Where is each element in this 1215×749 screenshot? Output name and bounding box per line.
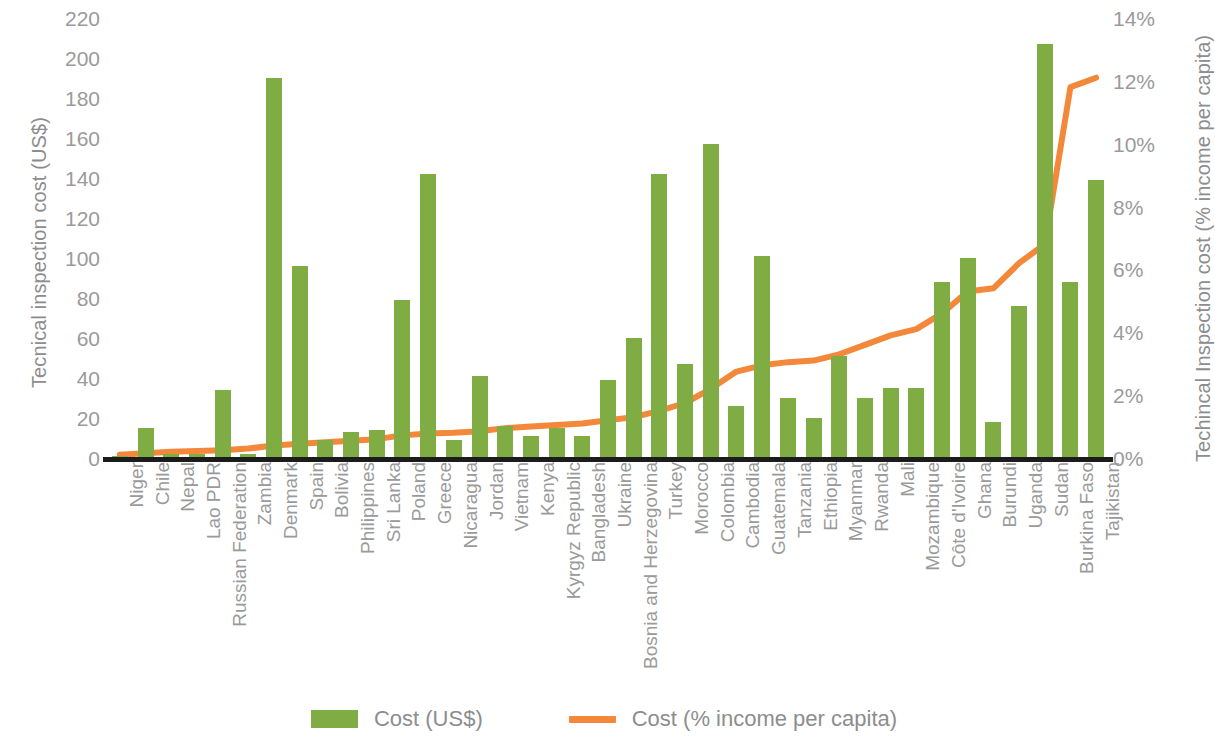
bar: [317, 440, 333, 458]
x-axis-category-label: Kenya: [538, 462, 557, 516]
bar: [677, 364, 693, 458]
y-axis-left-tick: 220: [54, 8, 100, 29]
x-axis-category-label: Turkey: [666, 462, 685, 519]
y-axis-left-tick: 40: [54, 368, 100, 389]
chart-legend: Cost (US$) Cost (% income per capita): [0, 706, 1208, 732]
bar: [780, 398, 796, 458]
x-axis-category-label: Philippines: [358, 462, 377, 554]
x-axis-category-label: Chile: [153, 462, 172, 505]
x-axis-category-label: Jordan: [487, 462, 506, 520]
x-axis-category-label: Spain: [307, 462, 326, 511]
y-axis-right-title: Techincal Inspection cost (% income per …: [1192, 35, 1215, 462]
y-axis-left-tick: 120: [54, 208, 100, 229]
x-axis-category-label: Mozambique: [923, 462, 942, 571]
x-axis-category-label: Niger: [127, 462, 146, 507]
x-axis-category-label: Colombia: [718, 462, 737, 542]
bar: [934, 282, 950, 458]
bar: [292, 266, 308, 458]
x-axis-category-label: Tajikistan: [1103, 462, 1122, 540]
legend-label-cost-percent-income: Cost (% income per capita): [632, 706, 897, 732]
x-axis-category-label: Nepal: [178, 462, 197, 512]
bar: [138, 428, 154, 458]
x-axis-category-label: Burundi: [1000, 462, 1019, 528]
y-axis-left-ticks: 020406080100120140160180200220: [54, 0, 100, 749]
bar: [574, 436, 590, 458]
legend-label-cost-usd: Cost (US$): [374, 706, 483, 732]
y-axis-right-tick: 8%: [1113, 197, 1173, 218]
bar: [1011, 306, 1027, 458]
x-axis-category-label: Mali: [898, 462, 917, 497]
bar: [703, 144, 719, 458]
x-axis-category-label: Denmark: [281, 462, 300, 539]
y-axis-left-tick: 80: [54, 288, 100, 309]
y-axis-left-tick: 180: [54, 88, 100, 109]
y-axis-right-tick: 12%: [1113, 71, 1173, 92]
y-axis-left-tick: 100: [54, 248, 100, 269]
bar: [549, 428, 565, 458]
y-axis-right-ticks: 0%2%4%6%8%10%12%14%: [1113, 0, 1173, 749]
x-axis-category-label: Greece: [435, 462, 454, 524]
x-axis-category-label: Poland: [409, 462, 428, 521]
bar: [908, 388, 924, 458]
bar: [523, 436, 539, 458]
bar: [1037, 44, 1053, 458]
x-axis-category-label: Burkina Faso: [1077, 462, 1096, 574]
bar: [369, 430, 385, 458]
plot-area: [107, 18, 1109, 458]
y-axis-left-tick: 60: [54, 328, 100, 349]
bar: [985, 422, 1001, 458]
bar: [472, 376, 488, 458]
x-axis-category-label: Bosnia and Herzegovina: [641, 462, 660, 669]
y-axis-left-title: Tecnical inspection cost (US$): [28, 117, 51, 388]
bar: [215, 390, 231, 458]
y-axis-left-tick: 200: [54, 48, 100, 69]
legend-bar-swatch-icon: [311, 710, 358, 728]
x-axis-category-label: Bolivia: [332, 462, 351, 518]
x-axis-category-label: Lao PDR: [204, 462, 223, 539]
x-axis-category-labels: NigerChileNepalLao PDRRussian Federation…: [107, 462, 1109, 692]
x-axis-category-label: Ethiopia: [821, 462, 840, 531]
x-axis-category-label: Sudan: [1052, 462, 1071, 517]
bar: [446, 440, 462, 458]
x-axis-category-label: Guatemala: [769, 462, 788, 555]
x-axis-category-label: Ghana: [975, 462, 994, 519]
legend-item-cost-usd: Cost (US$): [311, 706, 483, 732]
bar: [266, 78, 282, 458]
y-axis-left-tick: 140: [54, 168, 100, 189]
legend-line-swatch-icon: [569, 716, 616, 723]
x-axis-category-label: Uganda: [1026, 462, 1045, 529]
y-axis-right-tick: 14%: [1113, 8, 1173, 29]
x-axis-category-label: Tanzania: [795, 462, 814, 538]
bar: [343, 432, 359, 458]
bar: [420, 174, 436, 458]
x-axis-category-label: Kyrgyz Republic: [564, 462, 583, 599]
bar: [883, 388, 899, 458]
x-axis-category-label: Ukraine: [615, 462, 634, 527]
bar: [1062, 282, 1078, 458]
x-axis-category-label: Morocco: [692, 462, 711, 535]
bar: [394, 300, 410, 458]
bar: [728, 406, 744, 458]
bar: [651, 174, 667, 458]
bar: [497, 426, 513, 458]
bar: [600, 380, 616, 458]
x-axis-category-label: Myanmar: [846, 462, 865, 541]
y-axis-left-tick: 160: [54, 128, 100, 149]
bar: [960, 258, 976, 458]
bar: [806, 418, 822, 458]
y-axis-right-tick: 10%: [1113, 134, 1173, 155]
bar: [831, 356, 847, 458]
x-axis-category-label: Nicaragua: [461, 462, 480, 549]
y-axis-right-tick: 2%: [1113, 385, 1173, 406]
bar: [1088, 180, 1104, 458]
legend-item-cost-percent-income: Cost (% income per capita): [569, 706, 897, 732]
x-axis-category-label: Côte d'Ivoire: [949, 462, 968, 568]
bar: [626, 338, 642, 458]
y-axis-right-tick: 4%: [1113, 322, 1173, 343]
x-axis-category-label: Rwanda: [872, 462, 891, 532]
y-axis-left-tick: 0: [54, 448, 100, 469]
x-axis-category-label: Vietnam: [512, 462, 531, 531]
x-axis-category-label: Sri Lanka: [384, 462, 403, 542]
x-axis-category-label: Russian Federation: [230, 462, 249, 627]
